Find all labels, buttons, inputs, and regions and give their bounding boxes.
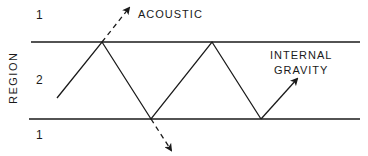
waveguide-diagram [0, 0, 368, 156]
acoustic-up-arrow [102, 8, 129, 42]
internal-label-line2: GRAVITY [270, 63, 332, 78]
acoustic-down-arrow [151, 119, 171, 150]
region-2-label: 2 [36, 73, 43, 87]
internal-gravity-label: INTERNAL GRAVITY [270, 48, 332, 78]
region-1-lower-label: 1 [36, 128, 43, 142]
internal-label-line1: INTERNAL [270, 48, 332, 63]
acoustic-label: ACOUSTIC [138, 8, 203, 20]
region-axis-title: REGION [7, 52, 19, 104]
region-1-upper-label: 1 [36, 8, 43, 22]
internal-gravity-ray [57, 42, 261, 119]
internal-gravity-arrow [261, 79, 297, 119]
